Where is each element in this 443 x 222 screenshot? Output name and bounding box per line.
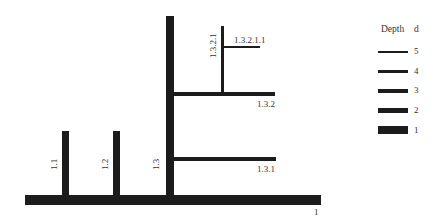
branch-1-3-2 <box>174 92 275 96</box>
label-1-3-2: 1.3.2 <box>257 100 275 109</box>
legend-line-depth-5 <box>378 51 408 53</box>
branch-1-3-2-1-1 <box>223 46 260 48</box>
legend-label-4: 4 <box>414 67 419 76</box>
legend-column-header: d <box>414 24 419 34</box>
label-1-3-1: 1.3.1 <box>257 165 275 174</box>
legend-line-depth-3 <box>378 89 408 93</box>
branch-1-3 <box>166 16 174 197</box>
branch-1-2 <box>113 131 120 197</box>
branch-1-1 <box>62 131 69 197</box>
label-1-3-2-1-1: 1.3.2.1.1 <box>234 36 266 45</box>
branch-1-3-1 <box>174 157 276 161</box>
legend-title: Depth <box>381 24 404 34</box>
label-1-3-2-1: 1.3.2.1 <box>209 33 218 58</box>
legend-label-1: 1 <box>414 126 419 135</box>
legend-label-2: 2 <box>414 106 419 115</box>
legend-label-3: 3 <box>414 86 419 95</box>
label-1-1: 1.1 <box>50 159 59 170</box>
legend-label-5: 5 <box>414 47 419 56</box>
legend-line-depth-1 <box>378 126 408 134</box>
label-1-3: 1.3 <box>152 159 161 170</box>
branch-1-3-2-1 <box>221 26 224 94</box>
legend-line-depth-4 <box>378 70 408 73</box>
legend-line-depth-2 <box>378 108 408 113</box>
label-1-2: 1.2 <box>101 159 110 170</box>
label-1: 1 <box>314 208 319 217</box>
